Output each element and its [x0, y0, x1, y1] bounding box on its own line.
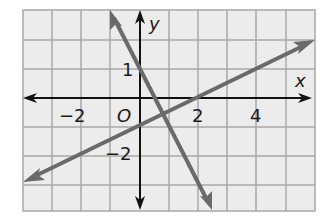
x-tick-label-4: 4: [250, 105, 261, 126]
x-tick-label-2: 2: [192, 105, 203, 126]
y-tick-label-1: 1: [122, 59, 133, 80]
y-axis-label: y: [148, 13, 160, 34]
coordinate-graph: y x O −2 2 4 1 −2: [0, 0, 328, 216]
origin-label: O: [117, 105, 131, 126]
x-axis-label: x: [294, 70, 306, 91]
y-tick-label-neg2: −2: [105, 143, 132, 164]
x-tick-label-neg2: −2: [59, 105, 86, 126]
